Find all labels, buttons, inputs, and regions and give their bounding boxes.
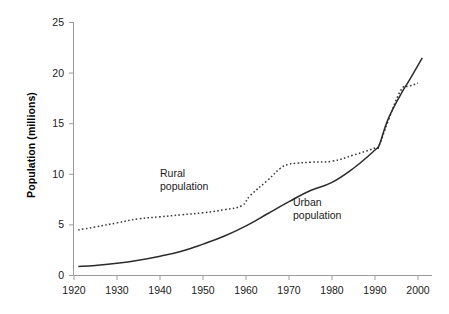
y-tick-label-15: 15 (40, 117, 64, 129)
urban-annotation-line1: Urban (293, 196, 341, 209)
x-tick-label-1940: 1940 (140, 284, 180, 296)
urban-population-line (78, 58, 422, 266)
urban-population-annotation: Urban population (293, 196, 341, 221)
x-tick-label-1920: 1920 (54, 284, 94, 296)
rural-annotation-line1: Rural (160, 167, 208, 180)
population-line-chart: Population (millions) 25 20 (0, 0, 449, 314)
rural-population-annotation: Rural population (160, 167, 208, 192)
y-tick-label-0: 0 (40, 269, 64, 281)
y-tick-label-10: 10 (40, 168, 64, 180)
x-tick-label-1960: 1960 (226, 284, 266, 296)
x-tick-label-1980: 1980 (312, 284, 352, 296)
x-tick-label-1930: 1930 (97, 284, 137, 296)
x-axis-ticks (74, 276, 418, 281)
x-tick-label-1950: 1950 (183, 284, 223, 296)
x-tick-label-2000: 2000 (398, 284, 438, 296)
y-axis-ticks (69, 23, 74, 276)
x-tick-label-1990: 1990 (355, 284, 395, 296)
y-tick-label-5: 5 (40, 218, 64, 230)
urban-annotation-line2: population (293, 209, 341, 222)
rural-annotation-line2: population (160, 180, 208, 193)
plot-area (0, 0, 449, 314)
y-tick-label-25: 25 (40, 16, 64, 28)
x-tick-label-1970: 1970 (269, 284, 309, 296)
y-tick-label-20: 20 (40, 67, 64, 79)
